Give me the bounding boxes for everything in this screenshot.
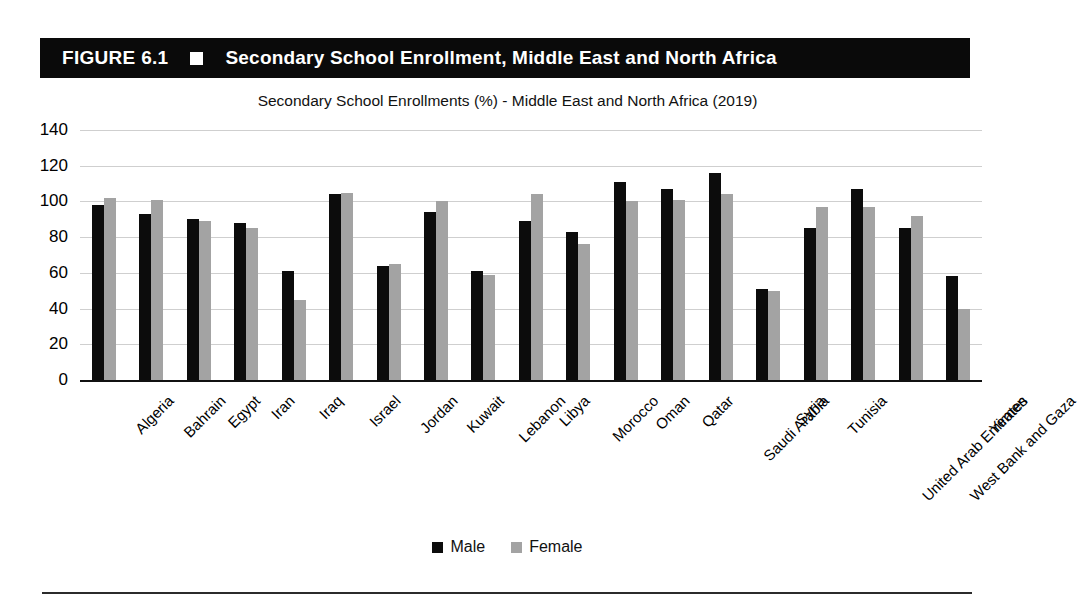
- bar-group: [602, 130, 649, 380]
- figure-number: FIGURE 6.1: [62, 47, 168, 69]
- bar-group: [555, 130, 602, 380]
- legend-label-male: Male: [450, 538, 485, 556]
- filled-square-icon: [190, 52, 203, 65]
- x-axis-label: Bahrain: [180, 392, 229, 441]
- y-axis-tick-label: 20: [49, 334, 68, 354]
- y-axis-tick-label: 140: [40, 120, 68, 140]
- bar-female: [341, 193, 353, 381]
- plot-area: [80, 130, 982, 382]
- bar-female: [104, 198, 116, 380]
- chart-legend: Male Female: [0, 538, 1015, 556]
- x-axis-label: Algeria: [131, 392, 176, 437]
- chart-title: Secondary School Enrollments (%) - Middl…: [0, 92, 1015, 110]
- bar-male: [661, 189, 673, 380]
- bar-female: [294, 300, 306, 380]
- bar-male: [329, 194, 341, 380]
- x-axis-label: Jordan: [416, 392, 460, 436]
- y-axis-tick-label: 80: [49, 227, 68, 247]
- y-axis-tick-label: 0: [59, 370, 68, 390]
- x-axis-label: Egypt: [224, 392, 263, 431]
- bar-male: [187, 219, 199, 380]
- bar-group: [222, 130, 269, 380]
- bar-male: [234, 223, 246, 380]
- bottom-divider: [42, 592, 972, 594]
- bar-male: [899, 228, 911, 380]
- figure-caption: Secondary School Enrollment, Middle East…: [225, 47, 776, 69]
- bar-group: [650, 130, 697, 380]
- x-axis-label: Yemen: [986, 392, 1031, 437]
- bar-female: [436, 201, 448, 380]
- bar-group: [80, 130, 127, 380]
- bar-male: [614, 182, 626, 380]
- bar-male: [519, 221, 531, 380]
- bar-male: [377, 266, 389, 380]
- y-axis-tick-label: 60: [49, 263, 68, 283]
- bar-male: [946, 276, 958, 380]
- x-axis-label: Kuwait: [463, 392, 507, 436]
- bar-male: [804, 228, 816, 380]
- bar-female: [816, 207, 828, 380]
- bar-group: [745, 130, 792, 380]
- bar-group: [317, 130, 364, 380]
- figure-header-banner: FIGURE 6.1 Secondary School Enrollment, …: [40, 38, 970, 78]
- bar-female: [958, 309, 970, 380]
- bar-female: [673, 200, 685, 380]
- legend-item-female: Female: [511, 538, 582, 556]
- bar-group: [792, 130, 839, 380]
- bar-female: [199, 221, 211, 380]
- bar-male: [139, 214, 151, 380]
- bar-female: [151, 200, 163, 380]
- bar-male: [471, 271, 483, 380]
- chart-plot-wrapper: 140120100806040200: [28, 130, 988, 390]
- y-axis-tick-label: 100: [40, 191, 68, 211]
- x-axis-label: Iran: [268, 392, 298, 422]
- bar-male: [92, 205, 104, 380]
- bar-male: [566, 232, 578, 380]
- bar-group: [127, 130, 174, 380]
- bar-female: [863, 207, 875, 380]
- legend-swatch-male-icon: [432, 542, 443, 553]
- bar-group: [887, 130, 934, 380]
- legend-swatch-female-icon: [511, 542, 522, 553]
- bar-female: [578, 244, 590, 380]
- x-axis-label: Israel: [366, 392, 404, 430]
- bar-group: [697, 130, 744, 380]
- bar-male: [424, 212, 436, 380]
- y-axis-tick-label: 40: [49, 299, 68, 319]
- bar-female: [531, 194, 543, 380]
- bar-group: [412, 130, 459, 380]
- legend-item-male: Male: [432, 538, 485, 556]
- bar-group: [365, 130, 412, 380]
- bars-layer: [80, 130, 982, 380]
- y-axis-tick-label: 120: [40, 156, 68, 176]
- bar-group: [507, 130, 554, 380]
- bar-male: [756, 289, 768, 380]
- bar-female: [483, 275, 495, 380]
- bar-female: [721, 194, 733, 380]
- x-axis-label: Iraq: [315, 392, 345, 422]
- bar-group: [460, 130, 507, 380]
- bar-group: [270, 130, 317, 380]
- bar-male: [282, 271, 294, 380]
- bar-male: [709, 173, 721, 380]
- bar-group: [934, 130, 981, 380]
- x-axis-label: Qatar: [698, 392, 737, 431]
- legend-label-female: Female: [529, 538, 582, 556]
- bar-group: [175, 130, 222, 380]
- y-axis: 140120100806040200: [28, 130, 74, 380]
- x-axis-labels: AlgeriaBahrainEgyptIranIraqIsraelJordanK…: [80, 392, 1014, 512]
- bar-female: [911, 216, 923, 380]
- bar-female: [626, 201, 638, 380]
- x-axis-label: Oman: [652, 392, 693, 433]
- bar-male: [851, 189, 863, 380]
- bar-group: [840, 130, 887, 380]
- bar-female: [389, 264, 401, 380]
- x-axis-label: Tunisia: [844, 392, 890, 438]
- bar-female: [768, 291, 780, 380]
- bar-female: [246, 228, 258, 380]
